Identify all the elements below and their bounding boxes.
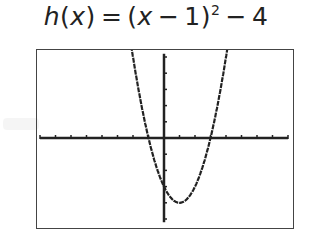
minus-sign: − [153,2,184,31]
parabola-curve [130,50,228,203]
inner-variable: x [138,2,153,31]
paren: ( [127,2,137,31]
calculator-screen [36,49,294,229]
minus-sign-2: − [220,2,251,31]
shift-constant: 1) [184,2,211,31]
graph-plot [37,50,295,230]
vertical-shift-constant: 4 [252,2,268,31]
variable: x [70,2,85,31]
smudge-artifact [3,118,39,130]
function-title: h(x)=(x−1)2−4 [0,2,312,31]
equals-sign: = [96,2,127,31]
function-name: h [44,2,60,31]
